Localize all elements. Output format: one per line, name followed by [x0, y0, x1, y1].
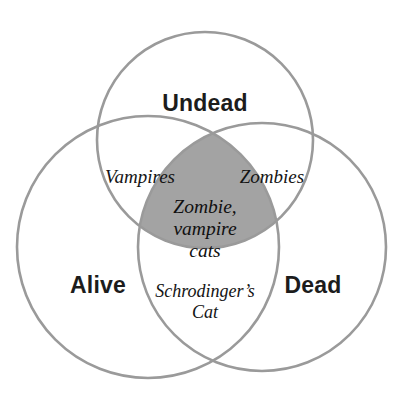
set-label-alive: Alive [70, 273, 126, 297]
region-label-schrodingers-cat: Schrodinger’s Cat [125, 281, 285, 322]
region-label-line-1: Schrodinger’s [125, 281, 285, 302]
region-label-zombies: Zombies [240, 167, 304, 188]
set-label-dead: Dead [284, 273, 341, 297]
region-label-zombie-vampire-cats: Zombie, vampire cats [145, 196, 265, 262]
region-label-line-2: Cat [125, 302, 285, 323]
venn-diagram: Undead Alive Dead Vampires Zombies Zombi… [0, 0, 411, 414]
venn-label-layer: Undead Alive Dead Vampires Zombies Zombi… [0, 0, 411, 414]
region-label-line-1: Zombie, [145, 196, 265, 218]
region-label-line-3: cats [145, 240, 265, 262]
region-label-vampires: Vampires [105, 167, 175, 188]
region-label-line-2: vampire [145, 218, 265, 240]
set-label-undead: Undead [162, 91, 248, 115]
